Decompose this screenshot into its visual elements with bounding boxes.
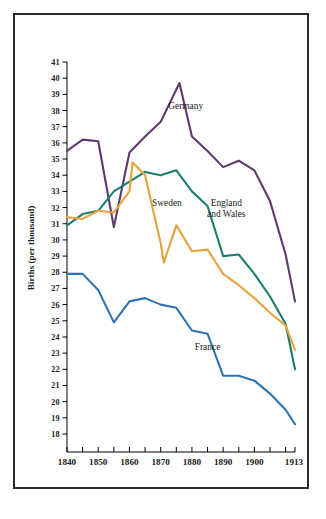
chart-plot-area: 1819202122232425262728293031323334353637… (0, 0, 326, 519)
x-axis-tick-label: 1840 (58, 457, 77, 467)
figure-container: 1819202122232425262728293031323334353637… (0, 0, 326, 519)
series-label-england-line2: and Wales (207, 209, 246, 219)
y-axis-title: Births (per thousand) (26, 206, 36, 291)
x-axis-tick-label: 1913 (285, 457, 304, 467)
series-label-sweden: Sweden (152, 198, 182, 208)
x-axis-tick-label: 1860 (120, 457, 139, 467)
series-label-germany: Germany (168, 101, 203, 111)
series-line-france (67, 274, 295, 424)
series-label-france: France (195, 342, 221, 352)
y-axis-tick-label: 41 (51, 58, 59, 67)
series-annotations-group: GermanySwedenEnglandand WalesFrance (152, 101, 246, 352)
y-axis-tick-label: 33 (51, 187, 59, 196)
y-axis-tick-label: 22 (51, 365, 59, 374)
y-axis-tick-label: 19 (51, 414, 59, 423)
y-axis-tick-label: 26 (51, 301, 59, 310)
y-axis-tick-label: 39 (51, 90, 59, 99)
series-label-england-line1: England (211, 198, 243, 208)
y-axis-tick-label: 38 (51, 107, 59, 116)
y-axis-tick-label: 31 (51, 220, 59, 229)
x-axis-tick-label: 1880 (183, 457, 202, 467)
y-axis-tick-label: 32 (51, 204, 59, 213)
y-axis-tick-label: 40 (51, 74, 59, 83)
y-axis-tick-label: 28 (51, 268, 59, 277)
y-axis-tick-label: 25 (51, 317, 59, 326)
x-axis-tick-label: 1850 (89, 457, 108, 467)
x-axis-tick-label: 1870 (152, 457, 171, 467)
x-axis-tick-label: 1900 (245, 457, 264, 467)
y-axis-tick-label: 21 (51, 381, 59, 390)
series-line-sweden (67, 162, 295, 350)
y-axis-tick-label: 27 (51, 284, 59, 293)
y-axis-tick-label: 29 (51, 252, 59, 261)
y-axis-tick-label: 20 (51, 398, 59, 407)
series-lines-group (67, 83, 295, 424)
y-axis-tick-label: 23 (51, 349, 59, 358)
y-axis-tick-label: 18 (51, 430, 59, 439)
y-axis-tick-label: 30 (51, 236, 59, 245)
y-axis-tick-label: 36 (51, 139, 59, 148)
y-axis-tick-label: 35 (51, 155, 59, 164)
y-axis-tick-label: 34 (51, 171, 59, 180)
x-axis-tick-label: 1890 (214, 457, 233, 467)
y-axis-tick-label: 24 (51, 333, 59, 342)
series-line-germany (67, 83, 295, 301)
y-axis-tick-label: 37 (51, 123, 59, 132)
